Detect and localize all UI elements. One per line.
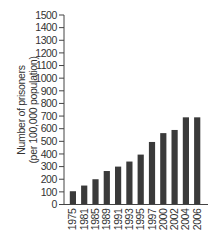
bar-1991 <box>115 167 121 205</box>
y-tick-label: 500 <box>41 135 58 147</box>
x-tick-label: 2002 <box>168 208 180 230</box>
y-tick-label: 800 <box>41 97 58 109</box>
bar-1975 <box>70 191 76 204</box>
y-tick-label: 900 <box>41 85 58 97</box>
x-tick-label: 1989 <box>100 208 112 230</box>
bar-1993 <box>126 162 132 205</box>
bar-2002 <box>172 130 178 205</box>
y-tick-label: 1500 <box>35 9 57 21</box>
y-axis: 0100200300400500600700800900100011001200… <box>35 9 64 211</box>
x-tick-label: 1997 <box>146 208 158 230</box>
bar-2006 <box>194 117 200 204</box>
y-tick-label: 700 <box>41 110 58 122</box>
y-tick-label: 300 <box>41 160 58 172</box>
x-tick-label: 2000 <box>157 208 169 230</box>
x-tick-label: 1991 <box>112 208 124 230</box>
bar-1985 <box>92 179 98 204</box>
y-tick-label: 1300 <box>35 34 57 46</box>
y-tick-label: 0 <box>52 198 58 210</box>
bar-2004 <box>183 117 189 204</box>
x-tick-label: 1993 <box>123 208 135 230</box>
y-tick-label: 1400 <box>35 21 57 33</box>
bar-2000 <box>160 133 166 204</box>
y-tick-label: 100 <box>41 186 58 198</box>
x-axis: 1975198119851989199119931995199720002002… <box>59 205 208 231</box>
y-tick-label: 1200 <box>35 47 57 59</box>
x-tick-label: 1985 <box>89 208 101 230</box>
x-tick-label: 2004 <box>179 208 191 230</box>
bar-chart: Number of prisoners(per 100,000 populati… <box>0 0 219 244</box>
y-tick-label: 200 <box>41 173 58 185</box>
x-tick-label: 1975 <box>66 208 78 230</box>
bar-1997 <box>149 142 155 205</box>
y-tick-label: 600 <box>41 122 58 134</box>
x-tick-label: 1995 <box>134 208 146 230</box>
x-tick-label: 2006 <box>191 208 203 230</box>
bar-1995 <box>138 155 144 205</box>
x-tick-label: 1981 <box>78 208 90 230</box>
y-axis-title-line: Number of prisoners <box>15 65 27 154</box>
bars <box>70 117 201 204</box>
bar-1989 <box>104 171 110 204</box>
bar-1981 <box>81 186 87 205</box>
y-tick-label: 1100 <box>36 59 58 71</box>
y-tick-label: 1000 <box>35 72 57 84</box>
y-tick-label: 400 <box>41 148 58 160</box>
